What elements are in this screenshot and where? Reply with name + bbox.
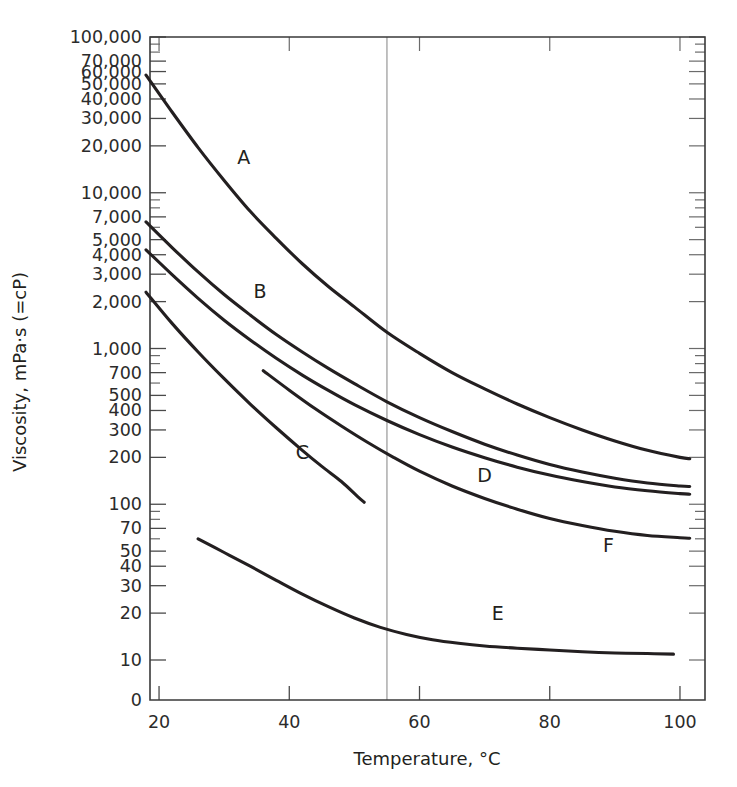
- y-tick-label: 100,000: [70, 27, 142, 47]
- curve-label-c: C: [296, 441, 309, 463]
- curve-label-a: A: [237, 146, 250, 168]
- x-tick-label: 60: [408, 712, 430, 732]
- y-tick-label: 10,000: [81, 183, 142, 203]
- x-tick-label: 100: [663, 712, 696, 732]
- y-axis-zero-label: 0: [131, 690, 142, 710]
- viscosity-temperature-figure: 100,00070,00060,00050,00040,00030,00020,…: [0, 0, 737, 787]
- viscosity-chart: 100,00070,00060,00050,00040,00030,00020,…: [0, 0, 737, 787]
- y-axis-title: Viscosity, mPa·s (=cP): [9, 272, 30, 472]
- y-tick-label: 40: [120, 556, 142, 576]
- y-tick-label: 20,000: [81, 136, 142, 156]
- y-tick-label: 400: [109, 400, 142, 420]
- curve-label-b: B: [253, 280, 266, 302]
- y-tick-label: 30,000: [81, 108, 142, 128]
- y-tick-label: 40,000: [81, 89, 142, 109]
- y-tick-label: 700: [109, 363, 142, 383]
- y-tick-label: 2,000: [92, 292, 142, 312]
- curve-label-d: D: [477, 464, 492, 486]
- y-tick-label: 100: [109, 494, 142, 514]
- curve-label-f: F: [603, 534, 614, 556]
- y-tick-label: 70: [120, 518, 142, 538]
- y-tick-label: 200: [109, 447, 142, 467]
- y-tick-label: 300: [109, 420, 142, 440]
- y-tick-label: 30: [120, 576, 142, 596]
- x-axis-title: Temperature, °C: [352, 748, 500, 769]
- y-tick-label: 7,000: [92, 207, 142, 227]
- x-tick-label: 80: [539, 712, 561, 732]
- y-tick-label: 20: [120, 603, 142, 623]
- y-tick-label: 4,000: [92, 245, 142, 265]
- y-tick-label: 3,000: [92, 264, 142, 284]
- curve-label-e: E: [492, 602, 504, 624]
- y-tick-label: 1,000: [92, 339, 142, 359]
- x-tick-label: 40: [278, 712, 300, 732]
- x-tick-label: 20: [148, 712, 170, 732]
- y-tick-label: 10: [120, 650, 142, 670]
